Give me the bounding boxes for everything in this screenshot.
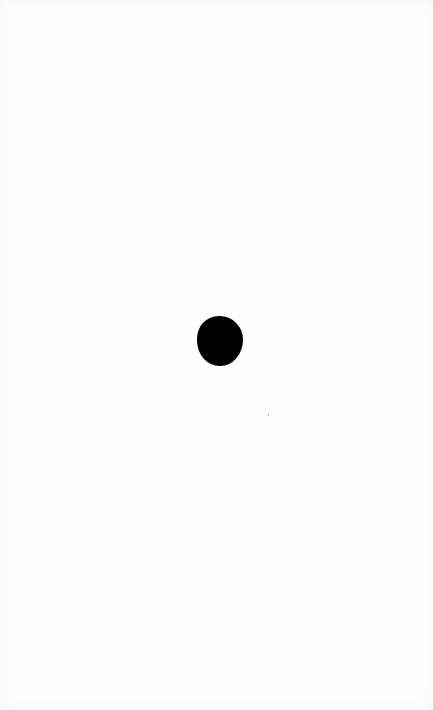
blank-page: [0, 0, 433, 710]
black-dot: [197, 316, 243, 366]
paper-speck: [268, 414, 269, 416]
